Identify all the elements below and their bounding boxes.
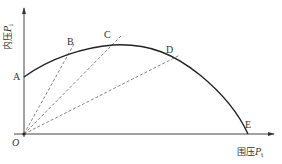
y-axis-label: 内压Pi <box>1 12 15 52</box>
point-label-e: E <box>245 120 251 130</box>
x-axis-label: 围压Pt <box>237 145 263 158</box>
ray-ob <box>24 44 74 134</box>
origin-label: O <box>12 138 19 148</box>
point-label-d: D <box>166 45 173 55</box>
point-label-a: A <box>13 72 20 82</box>
y-axis-label-text: 内压 <box>3 32 13 50</box>
x-axis-label-sub: t <box>261 151 263 158</box>
pressure-diagram: A B C D E O 内压Pi 围压Pt <box>0 0 282 164</box>
point-label-b: B <box>67 37 74 47</box>
ray-oc <box>24 36 121 134</box>
y-axis-label-sub: i <box>7 24 14 26</box>
x-axis-label-text: 围压 <box>237 147 255 157</box>
ray-od <box>24 55 180 134</box>
y-axis-label-var: P <box>3 26 13 32</box>
pressure-curve <box>24 45 248 134</box>
point-label-c: C <box>104 30 111 40</box>
diagram-canvas <box>0 0 282 164</box>
origin-dot <box>22 132 25 135</box>
